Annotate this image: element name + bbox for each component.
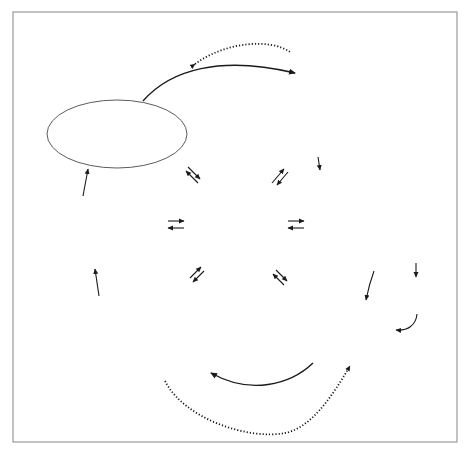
sip-model-diagram (0, 0, 472, 467)
diagram-frame (13, 12, 457, 442)
step-4-response-access (47, 100, 187, 168)
